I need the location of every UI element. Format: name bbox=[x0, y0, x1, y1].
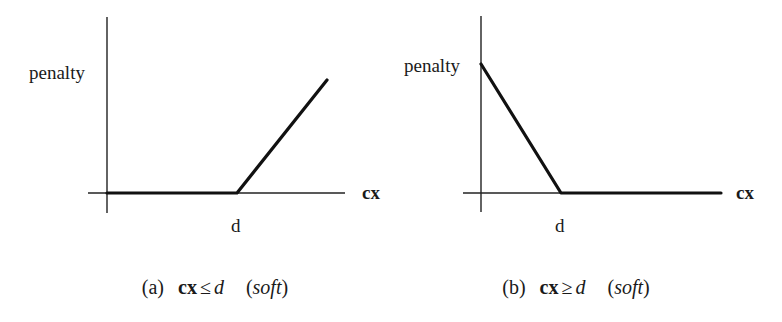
caption-tag: (a) bbox=[142, 276, 164, 298]
caption-rhs: d bbox=[214, 276, 224, 298]
caption-tag: (b) bbox=[502, 276, 525, 298]
caption-kind: soft bbox=[614, 276, 643, 298]
caption-kind: soft bbox=[253, 276, 282, 298]
caption-lhs: cx bbox=[178, 276, 197, 298]
penalty-curve bbox=[107, 80, 327, 193]
caption-operator: ≥ bbox=[561, 276, 572, 298]
figure-caption: (b)cx≥d(soft) bbox=[502, 277, 649, 297]
figure-caption: (a)cx≤d(soft) bbox=[142, 277, 288, 297]
caption-close-paren: ) bbox=[643, 276, 650, 298]
x-axis-label: cx bbox=[362, 183, 380, 202]
caption-open-paren: ( bbox=[607, 276, 614, 298]
caption-operator: ≤ bbox=[200, 276, 211, 298]
y-axis-label: penalty bbox=[29, 63, 85, 82]
plot-a bbox=[0, 0, 391, 322]
penalty-curve bbox=[481, 64, 721, 193]
caption-open-paren: ( bbox=[246, 276, 253, 298]
threshold-label: d bbox=[231, 216, 241, 235]
y-axis-label: penalty bbox=[404, 56, 460, 75]
x-axis-label: cx bbox=[736, 183, 754, 202]
plot-b bbox=[391, 0, 782, 322]
threshold-label: d bbox=[555, 216, 565, 235]
caption-rhs: d bbox=[575, 276, 585, 298]
figure-a-soft-le: penalty cx d (a)cx≤d(soft) bbox=[0, 0, 391, 322]
figure-b-soft-ge: penalty cx d (b)cx≥d(soft) bbox=[391, 0, 782, 322]
caption-lhs: cx bbox=[540, 276, 559, 298]
caption-close-paren: ) bbox=[281, 276, 288, 298]
